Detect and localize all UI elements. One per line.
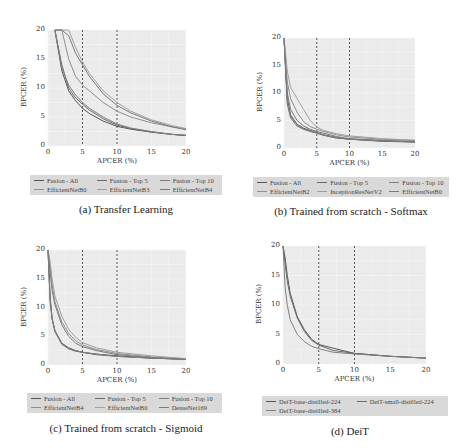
legend-item: Fusion - Top 10: [159, 395, 218, 403]
legend-item: EfficientNetB4: [160, 186, 218, 194]
x-tick-label: 15: [144, 148, 160, 156]
y-tick-label: 5: [267, 116, 281, 124]
x-axis-label: APCER (%): [283, 375, 426, 383]
legend-line-icon: [160, 189, 170, 190]
legend-label: DeiT-small-distilled-224: [370, 398, 434, 405]
legend-line-icon: [95, 398, 105, 399]
curves-svg: [48, 250, 186, 365]
curves-svg: [283, 246, 426, 364]
legend-line-icon: [389, 191, 399, 192]
legend-item: Fusion - All: [257, 179, 311, 187]
y-axis-label: BPCER (%): [20, 277, 28, 337]
y-tick-label: 20: [266, 241, 280, 249]
y-tick-label: 15: [31, 54, 45, 62]
legend-item: Fusion - Top 5: [95, 395, 153, 403]
legend: Fusion - AllFusion - Top 5Fusion - Top 1…: [27, 393, 222, 413]
legend-item: EfficientNetB2: [257, 188, 311, 196]
y-tick-label: 20: [31, 245, 45, 253]
legend: Fusion - AllFusion - Top 5Fusion - Top 1…: [253, 177, 449, 197]
x-tick-label: 15: [144, 367, 160, 375]
x-tick-label: 5: [309, 150, 325, 158]
panel-caption: (c) Trained from scratch - Sigmoid: [26, 422, 226, 434]
x-tick-label: 15: [374, 150, 390, 158]
x-tick-label: 10: [347, 366, 363, 374]
legend-line-icon: [266, 401, 276, 402]
x-tick-label: 5: [75, 367, 91, 375]
plot-area: [283, 246, 426, 364]
y-tick-label: 15: [266, 271, 280, 279]
legend-item: DenseNet169: [159, 404, 218, 412]
legend-item: Fusion - Top 5: [317, 179, 383, 187]
legend-line-icon: [389, 182, 399, 183]
x-tick-label: 20: [178, 148, 194, 156]
y-tick-label: 15: [31, 274, 45, 282]
y-tick-label: 10: [267, 88, 281, 96]
legend-label: Fusion - Top 10: [173, 177, 214, 184]
legend-label: EfficientNetB0: [402, 188, 442, 195]
y-tick-label: 20: [267, 33, 281, 41]
legend-item: DeiT-base-distilled-224: [266, 398, 351, 406]
y-axis-label: BPCER (%): [256, 62, 264, 122]
x-axis-label: APCER (%): [48, 376, 186, 384]
legend-line-icon: [97, 189, 107, 190]
legend-label: EfficientNetB2: [270, 188, 310, 195]
plot-area: [284, 38, 415, 148]
y-tick-label: 10: [31, 83, 45, 91]
legend-line-icon: [97, 180, 107, 181]
legend-item: DeiT-small-distilled-224: [357, 398, 444, 406]
legend-label: DeiT-base-distilled-384: [279, 407, 341, 414]
legend-label: EfficientNetB3: [110, 186, 150, 193]
legend-label: EfficientNetB0: [108, 404, 148, 411]
x-tick-label: 20: [407, 150, 423, 158]
x-tick-label: 20: [178, 367, 194, 375]
y-tick-label: 5: [31, 331, 45, 339]
legend-line-icon: [357, 401, 367, 402]
y-axis-label: BPCER (%): [255, 274, 263, 334]
legend-label: Fusion - Top 10: [402, 179, 443, 186]
legend-line-icon: [159, 407, 169, 408]
legend-label: EfficientNetB0: [47, 186, 87, 193]
legend-line-icon: [266, 410, 276, 411]
curves-svg: [284, 38, 415, 148]
legend: Fusion - AllFusion - Top 5Fusion - Top 1…: [30, 175, 222, 195]
legend-label: InceptionResNetV2: [330, 188, 382, 195]
x-tick-label: 0: [275, 366, 291, 374]
legend: DeiT-base-distilled-224DeiT-small-distil…: [262, 396, 448, 416]
legend-line-icon: [160, 180, 170, 181]
x-tick-label: 0: [276, 150, 292, 158]
panel-caption: (b) Trained from scratch - Softmax: [251, 205, 451, 217]
x-axis-label: APCER (%): [48, 157, 186, 165]
plot-area: [48, 250, 186, 365]
legend-label: Fusion - Top 5: [110, 177, 148, 184]
legend-label: Fusion - Top 5: [330, 179, 368, 186]
x-tick-label: 0: [40, 367, 56, 375]
x-tick-label: 20: [418, 366, 434, 374]
x-axis-label: APCER (%): [284, 159, 415, 167]
curves-svg: [48, 30, 186, 146]
panel-caption: (d) DeiT: [250, 425, 450, 437]
y-tick-label: 10: [31, 303, 45, 311]
legend-line-icon: [31, 407, 41, 408]
x-tick-label: 0: [40, 148, 56, 156]
panel-caption: (a) Transfer Learning: [26, 203, 226, 215]
legend-label: EfficientNetB4: [173, 186, 213, 193]
legend-item: Fusion - Top 5: [97, 177, 154, 185]
legend-item: InceptionResNetV2: [317, 188, 383, 196]
legend-item: EfficientNetB0: [34, 186, 91, 194]
legend-line-icon: [34, 189, 44, 190]
y-tick-label: 5: [31, 112, 45, 120]
y-tick-label: 10: [266, 300, 280, 308]
y-axis-label: BPCER (%): [20, 57, 28, 117]
plot-area: [48, 30, 186, 146]
legend-line-icon: [317, 182, 327, 183]
x-tick-label: 10: [109, 148, 125, 156]
legend-item: Fusion - Top 10: [389, 179, 445, 187]
y-tick-label: 20: [31, 25, 45, 33]
x-tick-label: 5: [311, 366, 327, 374]
legend-line-icon: [95, 407, 105, 408]
legend-label: Fusion - All: [47, 177, 78, 184]
y-tick-label: 15: [267, 61, 281, 69]
y-tick-label: 5: [266, 330, 280, 338]
x-tick-label: 5: [75, 148, 91, 156]
legend-line-icon: [34, 180, 44, 181]
